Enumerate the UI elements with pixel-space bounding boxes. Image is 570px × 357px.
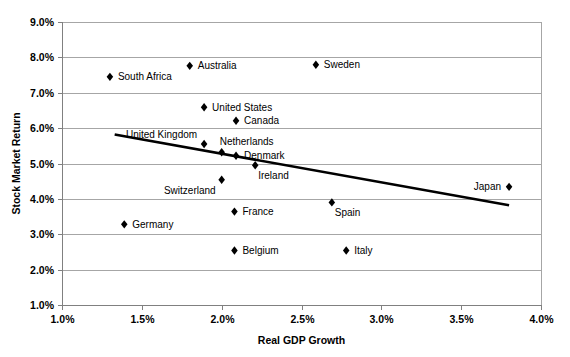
data-point-label: Canada xyxy=(244,115,279,126)
y-tick-label: 5.0% xyxy=(30,158,55,170)
x-tick-label: 2.0% xyxy=(211,313,236,325)
data-point-label: Sweden xyxy=(324,59,360,70)
chart-canvas: 1.0%2.0%3.0%4.0%5.0%6.0%7.0%8.0%9.0% 1.0… xyxy=(0,0,570,357)
y-tick-label: 9.0% xyxy=(30,16,55,28)
x-tick-label: 2.5% xyxy=(291,313,316,325)
data-point-label: Belgium xyxy=(242,245,278,256)
y-tick-label: 2.0% xyxy=(30,264,55,276)
data-point-label: Spain xyxy=(335,207,361,218)
data-point-label: Switzerland xyxy=(164,185,216,196)
y-tick-label: 7.0% xyxy=(30,87,55,99)
data-point-label: Netherlands xyxy=(220,136,274,147)
y-tick-label: 1.0% xyxy=(30,299,55,311)
y-tick-label: 6.0% xyxy=(30,122,55,134)
scatter-chart: 1.0%2.0%3.0%4.0%5.0%6.0%7.0%8.0%9.0% 1.0… xyxy=(0,0,570,357)
data-point-label: Germany xyxy=(132,219,173,230)
data-point-label: Australia xyxy=(198,60,237,71)
x-tick-label: 1.0% xyxy=(51,313,76,325)
data-point-label: Italy xyxy=(354,245,372,256)
x-tick-label: 3.0% xyxy=(370,313,395,325)
y-axis-title: Stock Market Return xyxy=(10,112,22,214)
data-point-label: Denmark xyxy=(244,150,286,161)
y-tick-label: 8.0% xyxy=(30,51,55,63)
y-tick-label: 4.0% xyxy=(30,193,55,205)
data-point-label: France xyxy=(242,206,274,217)
x-axis-title: Real GDP Growth xyxy=(258,334,345,346)
x-tick-label: 1.5% xyxy=(131,313,156,325)
data-point[interactable]: United States xyxy=(201,102,272,113)
x-tick-label: 4.0% xyxy=(530,313,555,325)
data-point-label: South Africa xyxy=(118,71,172,82)
data-point-label: Japan xyxy=(474,181,501,192)
y-tick-label: 3.0% xyxy=(30,228,55,240)
x-tick-label: 3.5% xyxy=(450,313,475,325)
data-point-label: Ireland xyxy=(258,170,289,181)
data-point-label: United States xyxy=(212,102,272,113)
data-point-label: United Kingdom xyxy=(126,129,197,140)
